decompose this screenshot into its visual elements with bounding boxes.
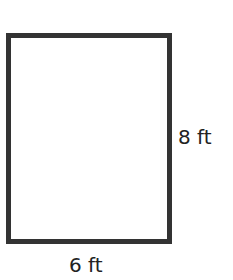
rectangle-shape (6, 33, 172, 244)
width-label: 6 ft (69, 255, 103, 275)
height-label: 8 ft (178, 127, 212, 147)
